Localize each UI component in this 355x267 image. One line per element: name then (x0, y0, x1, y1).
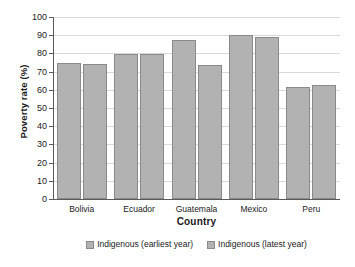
y-axis-tick-label: 90 (37, 31, 47, 40)
plot-area: 0102030405060708090100 BoliviaEcuadorGua… (53, 17, 340, 199)
x-axis-tick-label: Guatemala (176, 205, 218, 214)
x-axis-tick-label: Mexico (240, 205, 267, 214)
bar (114, 54, 138, 199)
legend: Indigenous (earliest year)Indigenous (la… (53, 240, 340, 249)
poverty-rate-bar-chart: Poverty rate (%) 0102030405060708090100 … (0, 0, 355, 267)
y-axis-tick-label: 80 (37, 49, 47, 58)
bar-group-container (53, 17, 340, 199)
x-axis-line (53, 199, 340, 200)
bar (140, 54, 164, 199)
y-axis-tick-label: 40 (37, 122, 47, 131)
bar (312, 85, 336, 199)
y-axis-tick-label: 20 (37, 158, 47, 167)
bar (83, 64, 107, 199)
y-axis-tick-label: 30 (37, 140, 47, 149)
legend-entry: Indigenous (earliest year) (86, 240, 193, 249)
bar (229, 35, 253, 199)
y-axis-tick-label: 70 (37, 67, 47, 76)
legend-label: Indigenous (earliest year) (97, 240, 193, 249)
legend-swatch-icon (86, 241, 94, 249)
x-axis-tick-label: Ecuador (123, 205, 155, 214)
x-axis-tick-label: Peru (302, 205, 320, 214)
bar (57, 63, 81, 200)
x-axis-tick-label: Bolivia (69, 205, 94, 214)
bar (286, 87, 310, 199)
legend-entry: Indigenous (latest year) (207, 240, 307, 249)
bar (198, 65, 222, 199)
y-axis-tick-label: 60 (37, 85, 47, 94)
y-axis-tick-label: 0 (42, 195, 47, 204)
x-axis-title: Country (53, 216, 340, 227)
y-axis-title: Poverty rate (%) (18, 27, 29, 177)
bar (255, 37, 279, 199)
bar (172, 40, 196, 199)
legend-label: Indigenous (latest year) (218, 240, 307, 249)
legend-swatch-icon (207, 241, 215, 249)
y-axis-tick-label: 50 (37, 104, 47, 113)
y-axis-tick-label: 100 (32, 13, 47, 22)
y-axis-tick-label: 10 (37, 176, 47, 185)
